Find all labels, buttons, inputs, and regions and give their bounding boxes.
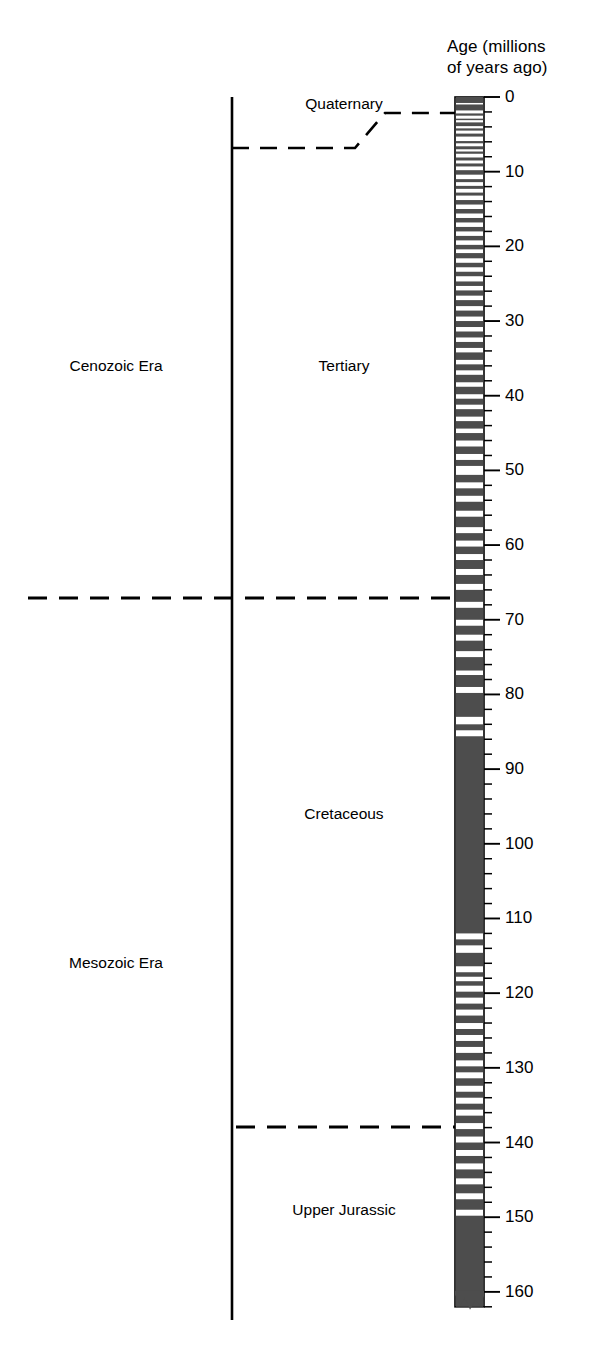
polarity-band-normal: [456, 560, 483, 569]
axis-tick-label: 70: [505, 611, 524, 628]
era-label: Mesozoic Era: [0, 954, 232, 971]
axis-tick-label: 40: [505, 387, 524, 404]
polarity-band-normal: [456, 421, 483, 428]
boundary-quaternary-tertiary: [232, 113, 455, 148]
polarity-band-normal: [456, 179, 483, 182]
polarity-band-normal: [456, 939, 483, 945]
polarity-band-normal: [456, 364, 483, 370]
age-axis-ticks: [484, 97, 500, 1307]
polarity-band-normal: [456, 141, 483, 143]
polarity-band-normal: [456, 186, 483, 189]
axis-title: Age (millions of years ago): [447, 36, 603, 78]
polarity-band-normal: [456, 387, 483, 394]
polarity-band-normal: [456, 1184, 483, 1193]
polarity-band-normal: [456, 1199, 483, 1209]
polarity-band-normal: [456, 1116, 483, 1123]
polarity-band-normal: [456, 290, 483, 295]
polarity-band-normal: [456, 128, 483, 130]
polarity-band-normal: [456, 736, 483, 933]
polarity-band-normal: [456, 724, 483, 730]
polarity-band-normal: [456, 272, 483, 276]
polarity-band-normal: [456, 488, 483, 495]
axis-tick-label: 60: [505, 536, 524, 553]
axis-tick-label: 120: [505, 984, 533, 1001]
axis-tick-label: 50: [505, 461, 524, 478]
polarity-band-normal: [456, 1169, 483, 1178]
polarity-band-normal: [456, 693, 483, 717]
polarity-band-normal: [456, 641, 483, 651]
polarity-band-normal: [456, 626, 483, 635]
axis-tick-label: 80: [505, 685, 524, 702]
polarity-band-normal: [456, 447, 483, 454]
polarity-band-normal: [456, 157, 483, 160]
polarity-band-normal: [456, 263, 483, 267]
polarity-band-normal: [456, 209, 483, 213]
polarity-band-normal: [456, 236, 483, 240]
polarity-band-normal: [456, 399, 483, 405]
polarity-band-normal: [456, 992, 483, 998]
polarity-band-normal: [456, 119, 483, 120]
period-label: Upper Jurassic: [236, 1201, 452, 1218]
polarity-band-normal: [456, 163, 483, 166]
polarity-band-normal: [456, 170, 483, 174]
polarity-band-normal: [456, 1029, 483, 1035]
polarity-band-normal: [456, 657, 483, 670]
axis-title-line-1: Age (millions: [447, 37, 546, 56]
polarity-band-normal: [456, 300, 483, 306]
polarity-band-normal: [456, 502, 483, 511]
polarity-band-normal: [456, 1004, 483, 1010]
polarity-band-normal: [456, 375, 483, 382]
polarity-band-normal: [456, 281, 483, 285]
axis-tick-label: 30: [505, 312, 524, 329]
polarity-band-normal: [456, 1016, 483, 1023]
polarity-band-normal: [456, 1143, 483, 1150]
polarity-band-normal: [456, 533, 483, 540]
polarity-band-normal: [456, 331, 483, 337]
polarity-band-normal: [456, 433, 483, 440]
polarity-band-normal: [456, 972, 483, 976]
polarity-band-normal: [456, 113, 483, 115]
axis-tick-label: 90: [505, 760, 524, 777]
polarity-band-normal: [456, 200, 483, 204]
polarity-band-normal: [456, 152, 483, 154]
polarity-band-normal: [456, 547, 483, 554]
polarity-band-normal: [456, 245, 483, 249]
polarity-band-normal: [456, 97, 483, 103]
polarity-band-normal: [456, 104, 483, 110]
polarity-band-normal: [456, 1041, 483, 1047]
polarity-band-normal: [456, 1053, 483, 1060]
axis-tick-label: 20: [505, 237, 524, 254]
axis-tick-label: 150: [505, 1208, 533, 1225]
polarity-band-normal: [456, 1129, 483, 1136]
polarity-band-normal: [456, 575, 483, 584]
polarity-band-normal: [456, 218, 483, 222]
polarity-band-normal: [456, 409, 483, 416]
polarity-band-normal: [456, 608, 483, 620]
polarity-band-normal: [456, 517, 483, 527]
period-label: Quaternary: [236, 95, 452, 112]
era-label: Cenozoic Era: [0, 357, 232, 374]
axis-tick-label: 110: [505, 909, 532, 926]
period-label: Tertiary: [236, 357, 452, 374]
axis-tick-label: 0: [505, 88, 514, 105]
axis-tick-label: 140: [505, 1134, 533, 1151]
polarity-band-normal: [456, 134, 483, 137]
period-label: Cretaceous: [236, 805, 452, 822]
polarity-band-normal: [456, 253, 483, 258]
polarity-band-normal: [456, 122, 483, 126]
polarity-band-normal: [456, 1078, 483, 1085]
polarity-band-normal: [456, 342, 483, 348]
axis-title-line-2: of years ago): [447, 58, 548, 77]
polarity-band-normal: [456, 193, 483, 196]
magnetic-polarity-column: [455, 97, 484, 1310]
polarity-band-normal: [456, 475, 483, 482]
polarity-band-normal: [456, 352, 483, 359]
axis-tick-label: 10: [505, 163, 524, 180]
polarity-band-normal: [456, 1066, 483, 1072]
geologic-time-scale-figure: Age (millions of years ago) 010203040506…: [0, 0, 603, 1345]
polarity-band-normal: [456, 227, 483, 231]
polarity-band-normal: [456, 321, 483, 327]
polarity-band-normal: [456, 953, 483, 966]
axis-tick-label: 130: [505, 1059, 533, 1076]
polarity-band-normal: [456, 590, 483, 602]
